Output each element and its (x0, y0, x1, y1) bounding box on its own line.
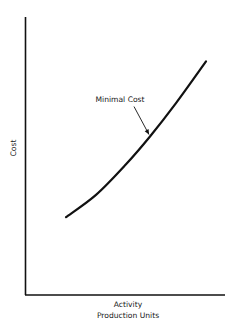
annotation-minimal-cost: Minimal Cost (95, 95, 144, 104)
cost-chart: Minimal Cost Cost Activity Production Un… (0, 0, 237, 334)
cost-curve-line (66, 61, 206, 217)
y-axis-label: Cost (9, 140, 18, 157)
x-axis-label-line-1: Activity (114, 300, 143, 309)
x-axis-label-line-2: Production Units (97, 311, 159, 320)
